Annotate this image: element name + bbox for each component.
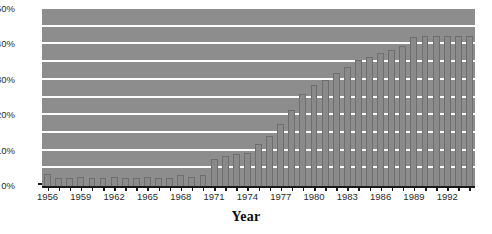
bar — [111, 177, 118, 186]
bar — [288, 110, 295, 186]
bar — [399, 46, 406, 186]
bar — [222, 156, 229, 186]
x-axis-tick — [469, 186, 471, 191]
x-axis-tick-label: 1992 — [431, 191, 463, 202]
x-axis-title: Year — [0, 209, 492, 225]
x-axis-tick-label: 1959 — [65, 191, 97, 202]
bar — [44, 174, 51, 186]
bar — [77, 177, 84, 186]
bar — [55, 178, 62, 186]
bar — [100, 178, 107, 186]
bar — [266, 136, 273, 186]
bar — [444, 36, 451, 186]
x-axis-tick-label: 1977 — [265, 191, 297, 202]
bar — [377, 53, 384, 186]
y-axis-origin-tick — [38, 183, 42, 185]
bar — [388, 50, 395, 186]
y-axis-tick-label: 40% — [0, 38, 15, 49]
x-axis-tick-label: 1974 — [231, 191, 263, 202]
x-axis-tick-label: 1989 — [398, 191, 430, 202]
x-axis-tick-label: 1980 — [298, 191, 330, 202]
bar — [200, 175, 207, 186]
bar — [433, 36, 440, 186]
bar — [466, 36, 473, 186]
bar — [299, 94, 306, 186]
bar — [366, 57, 373, 186]
bar — [133, 178, 140, 186]
bar — [422, 36, 429, 186]
bar — [188, 177, 195, 186]
bar — [233, 154, 240, 186]
x-axis-tick-label: 1965 — [131, 191, 163, 202]
bar — [66, 178, 73, 186]
bar — [333, 73, 340, 186]
bar — [211, 159, 218, 186]
y-axis-tick-label: 0% — [0, 180, 15, 191]
y-axis-tick-label: 30% — [0, 74, 15, 85]
x-axis-tick-label: 1983 — [331, 191, 363, 202]
y-axis-tick-label: 10% — [0, 145, 15, 156]
y-axis-tick-label: 50% — [0, 3, 15, 14]
bar — [255, 144, 262, 186]
x-axis-tick-label: 1968 — [165, 191, 197, 202]
bar — [166, 178, 173, 186]
bar — [311, 85, 318, 186]
chart-figure: 0%10%20%30%40%50% 1956195919621965196819… — [0, 0, 492, 234]
x-axis-tick-label: 1986 — [365, 191, 397, 202]
plot-area — [42, 9, 475, 186]
bar — [344, 67, 351, 186]
x-axis-tick-label: 1956 — [32, 191, 64, 202]
x-axis-tick-label: 1962 — [98, 191, 130, 202]
bar — [455, 36, 462, 186]
bar — [89, 178, 96, 186]
bar — [410, 37, 417, 186]
x-axis-tick-label: 1971 — [198, 191, 230, 202]
bar — [144, 177, 151, 186]
bar — [244, 153, 251, 186]
bar — [177, 175, 184, 186]
bar — [355, 60, 362, 186]
y-axis-tick-label: 20% — [0, 109, 15, 120]
bar — [155, 178, 162, 186]
bar — [322, 80, 329, 186]
bar — [277, 124, 284, 186]
bar — [122, 178, 129, 186]
bars-group — [42, 9, 475, 186]
